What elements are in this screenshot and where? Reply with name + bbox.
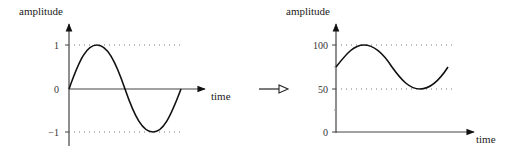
right-tick-label-100: 100 (313, 40, 328, 51)
hollow-arrowhead-icon (279, 85, 288, 93)
left-tick-label-0: 0 (54, 84, 59, 95)
diagram: amplitude time 1 0 −1 amplitude time 100… (0, 0, 514, 153)
right-tick-label-0: 0 (323, 127, 328, 138)
right-ylabel: amplitude (286, 5, 330, 17)
right-offset-sine-curve (336, 45, 448, 89)
right-xlabel: time (476, 133, 496, 145)
left-xlabel: time (211, 90, 231, 102)
transform-arrow (259, 85, 288, 93)
right-tick-label-50: 50 (318, 84, 328, 95)
right-chart: amplitude time 100 50 0 (286, 5, 496, 145)
left-ylabel: amplitude (19, 5, 63, 17)
left-tick-label-1: 1 (54, 40, 59, 51)
left-chart: amplitude time 1 0 −1 (19, 5, 231, 146)
left-tick-label-minus1: −1 (48, 127, 59, 138)
